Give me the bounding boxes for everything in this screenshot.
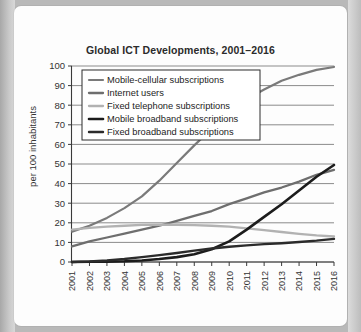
y-tick-label: 20 (54, 217, 65, 228)
legend-label-0: Mobile-cellular subscriptions (107, 75, 224, 85)
x-tick-label: 2002 (85, 271, 95, 291)
legend-label-4: Fixed broadband subscriptions (107, 127, 234, 137)
x-tick-label: 2008 (190, 271, 200, 291)
y-tick-label: 90 (54, 80, 65, 91)
x-tick-label: 2016 (329, 271, 339, 291)
page-left-edge-shadow (0, 0, 15, 332)
line-chart-svg: 0102030405060708090100 20012002200320042… (14, 6, 347, 326)
y-tick-label: 70 (54, 119, 65, 130)
x-tick-label: 2012 (260, 271, 270, 291)
x-tick-label: 2001 (67, 271, 77, 291)
x-tick-label: 2009 (207, 271, 217, 291)
y-tick-label: 100 (49, 60, 65, 71)
y-tick-label: 10 (54, 237, 65, 248)
x-tick-label: 2011 (242, 271, 252, 290)
legend-label-1: Internet users (107, 88, 164, 98)
y-tick-label: 50 (54, 158, 65, 169)
y-tick-label: 0 (60, 256, 65, 267)
x-tick-label: 2006 (155, 271, 165, 291)
series-line-2 (72, 225, 334, 237)
y-tick-label: 60 (54, 139, 65, 150)
x-tick-label: 2005 (137, 271, 147, 291)
x-tick-label: 2003 (102, 271, 112, 291)
x-tick-label: 2004 (120, 271, 130, 291)
x-tick-label: 2010 (225, 271, 235, 291)
x-tick-labels-group: 2001200220032004200520062007200820092010… (67, 271, 339, 291)
x-tick-label: 2015 (312, 271, 322, 291)
y-tick-label: 40 (54, 178, 65, 189)
y-tick-labels-group: 0102030405060708090100 (49, 60, 65, 267)
page-right-edge-shadow (348, 0, 361, 332)
chart-legend: Mobile-cellular subscriptionsInternet us… (82, 70, 260, 140)
chart-card: Global ICT Developments, 2001–2016 per 1… (14, 6, 347, 326)
x-tick-label: 2007 (172, 271, 182, 291)
legend-label-2: Fixed telephone subscriptions (107, 101, 230, 111)
series-line-1 (72, 170, 334, 246)
y-tick-label: 30 (54, 198, 65, 209)
legend-label-3: Mobile broadband subscriptions (107, 114, 239, 124)
x-tick-label: 2013 (277, 271, 287, 291)
x-tick-label: 2014 (294, 271, 304, 291)
plot-area: 0102030405060708090100 20012002200320042… (14, 6, 347, 326)
y-tick-label: 80 (54, 100, 65, 111)
